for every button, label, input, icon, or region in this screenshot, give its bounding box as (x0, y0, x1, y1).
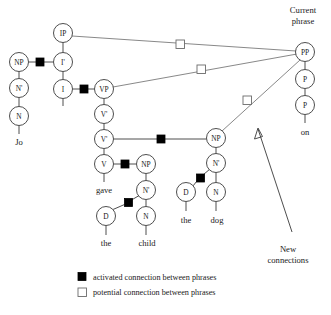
node-p-lower: P (296, 96, 315, 115)
sq-vp-pp (197, 65, 206, 74)
sq-ip-pp (176, 40, 185, 49)
node-vbar-upper: V' (95, 105, 114, 124)
sq-d-nbar-child (125, 199, 133, 207)
terminal-words: Jo gave the child the dog on (15, 127, 310, 248)
sq-vbar-np-child (157, 135, 165, 143)
vp-spine-edges (104, 99, 207, 183)
node-label: I' (61, 58, 65, 67)
node-pp: PP (296, 43, 315, 62)
edge-dchild-square (113, 205, 125, 210)
current-phrase-line2: phrase (292, 16, 315, 26)
legend: activated connection between phrases pot… (78, 273, 216, 298)
node-label: N' (16, 84, 23, 93)
node-ibar: I' (54, 53, 73, 72)
sq-v-np (121, 160, 129, 168)
node-nbar-jo: N' (10, 79, 29, 98)
node-label: P (303, 75, 307, 84)
node-n-dog: N (207, 183, 226, 202)
word-the-1: the (101, 238, 112, 248)
new-connections-line2: connections (267, 255, 309, 265)
current-phrase-line1: Current (290, 5, 317, 15)
node-v: V (95, 155, 114, 174)
potential-connection-squares (176, 40, 252, 105)
annotation-new-connections: New connections (267, 244, 309, 265)
tree-nodes: NP N' N IP I' I (10, 24, 315, 226)
node-label: IP (60, 29, 67, 38)
tree-diagram-canvas: NP N' N IP I' I (0, 0, 331, 315)
node-p-upper: P (296, 70, 315, 89)
node-label: N (213, 188, 219, 197)
node-label: P (303, 101, 307, 110)
sq-np-pp (243, 96, 252, 105)
node-n-jo: N (10, 107, 29, 126)
node-label: NP (141, 160, 150, 169)
node-i: I (54, 80, 73, 99)
word-child: child (138, 238, 156, 248)
edge-ddog-square (193, 182, 197, 187)
node-label: PP (301, 48, 309, 57)
node-ip: IP (54, 24, 73, 43)
node-label: N (16, 112, 22, 121)
word-on: on (301, 127, 310, 137)
node-np-jo: NP (10, 53, 29, 72)
sq-np-ibar (36, 58, 44, 66)
word-gave: gave (96, 185, 112, 195)
node-vbar-lower: V' (95, 130, 114, 149)
node-label: N' (213, 159, 220, 168)
legend-activated-square (78, 273, 86, 281)
node-n-child: N (137, 207, 156, 226)
node-label: N' (143, 186, 150, 195)
legend-activated-label: activated connection between phrases (93, 273, 216, 282)
legend-potential-label: potential connection between phrases (93, 288, 216, 297)
node-label: V (101, 160, 107, 169)
node-label: NP (211, 134, 220, 143)
arrow-shaft (258, 129, 292, 232)
node-label: NP (14, 58, 23, 67)
sq-d-nbar-dog (197, 174, 205, 182)
word-jo: Jo (15, 137, 23, 147)
node-label: V' (101, 135, 108, 144)
node-d-child: D (97, 207, 116, 226)
node-nbar-child: N' (137, 181, 156, 200)
new-connections-line1: New (280, 244, 297, 254)
node-label: D (183, 188, 189, 197)
link-np-to-pp (222, 60, 300, 131)
new-connections-arrow (255, 128, 293, 232)
syntactic-tree-figure: NP N' N IP I' I (0, 0, 331, 315)
word-dog: dog (211, 215, 225, 225)
node-label: N (143, 212, 149, 221)
node-label: VP (99, 85, 108, 94)
node-nbar-dog: N' (207, 154, 226, 173)
annotation-current-phrase: Current phrase (290, 5, 317, 26)
node-np-dog: NP (207, 129, 226, 148)
node-label: V' (101, 110, 108, 119)
node-label: D (103, 212, 109, 221)
node-np-child: NP (137, 155, 156, 174)
arrow-head (255, 128, 263, 139)
legend-potential-square (78, 288, 87, 297)
node-vp: VP (95, 80, 114, 99)
word-the-2: the (181, 215, 192, 225)
sq-i-vp (80, 85, 88, 93)
node-d-dog: D (177, 183, 196, 202)
